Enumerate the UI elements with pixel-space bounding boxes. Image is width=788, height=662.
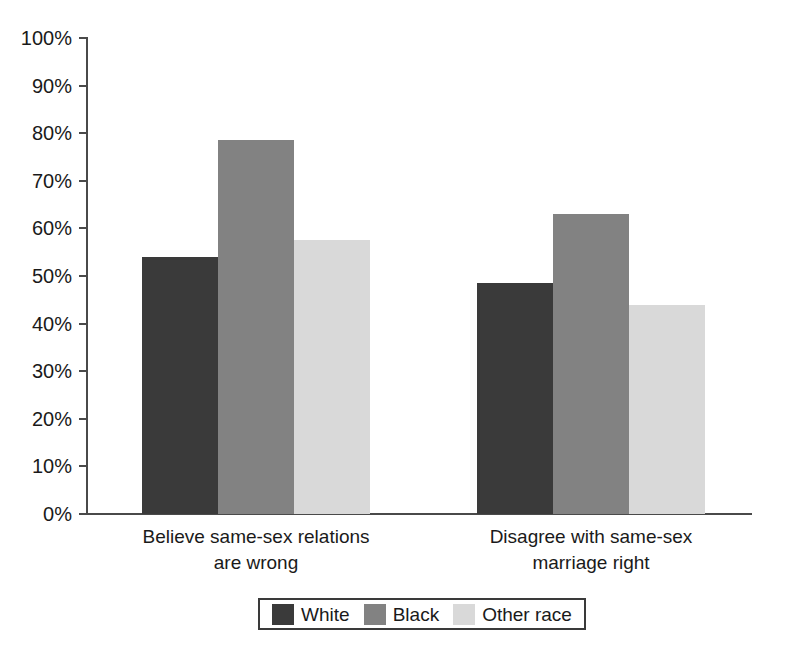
bar-chart: 0%10%20%30%40%50%60%70%80%90%100% Believ… bbox=[0, 0, 788, 662]
bar-other-race bbox=[294, 240, 370, 514]
y-axis-tick-label-text: 10% bbox=[0, 456, 72, 476]
bar-white bbox=[477, 283, 553, 514]
y-axis-tick-label: 100% bbox=[0, 28, 72, 48]
y-axis-tick-label-text: 70% bbox=[0, 171, 72, 191]
y-axis-tick-label-text: 30% bbox=[0, 361, 72, 381]
legend-item[interactable]: Black bbox=[364, 604, 439, 625]
x-axis-category-label-line: are wrong bbox=[106, 550, 406, 576]
legend-swatch-icon bbox=[272, 604, 294, 625]
y-axis-tick-label: 80% bbox=[0, 123, 72, 143]
y-axis-tick-label: 90% bbox=[0, 76, 72, 96]
y-axis-tick-label-text: 80% bbox=[0, 123, 72, 143]
x-axis-category-label-line: Believe same-sex relations bbox=[106, 524, 406, 550]
x-axis-category-label-line: Disagree with same-sex bbox=[441, 524, 741, 550]
bar-group bbox=[142, 38, 370, 514]
y-axis-tick-label-text: 0% bbox=[0, 504, 72, 524]
y-axis-tick-label: 60% bbox=[0, 218, 72, 238]
y-axis-tick-label: 10% bbox=[0, 456, 72, 476]
bar-group bbox=[477, 38, 705, 514]
legend-label: Black bbox=[393, 605, 439, 624]
y-axis-tick-label-text: 100% bbox=[0, 28, 72, 48]
x-axis-category-label-line: marriage right bbox=[441, 550, 741, 576]
bar-other-race bbox=[629, 305, 705, 514]
bar-white bbox=[142, 257, 218, 514]
x-axis-category-label: Disagree with same-sexmarriage right bbox=[441, 524, 741, 576]
chart-legend: WhiteBlackOther race bbox=[258, 598, 586, 630]
legend-swatch-icon bbox=[364, 604, 386, 625]
legend-item[interactable]: White bbox=[272, 604, 350, 625]
y-axis-tick-label: 0% bbox=[0, 504, 72, 524]
bar-black bbox=[218, 140, 294, 514]
legend-label: White bbox=[301, 605, 350, 624]
plot-area bbox=[87, 38, 752, 514]
y-axis-tick-label: 70% bbox=[0, 171, 72, 191]
legend-label: Other race bbox=[482, 605, 572, 624]
y-axis-tick-label: 40% bbox=[0, 314, 72, 334]
y-axis-tick-label-text: 60% bbox=[0, 218, 72, 238]
y-axis-tick-label-text: 50% bbox=[0, 266, 72, 286]
y-axis-tick-label: 50% bbox=[0, 266, 72, 286]
y-axis-tick-label-text: 20% bbox=[0, 409, 72, 429]
legend-item[interactable]: Other race bbox=[453, 604, 572, 625]
bar-black bbox=[553, 214, 629, 514]
y-axis-tick-label: 30% bbox=[0, 361, 72, 381]
y-axis-tick-label-text: 40% bbox=[0, 314, 72, 334]
legend-swatch-icon bbox=[453, 604, 475, 625]
y-axis-tick-label-text: 90% bbox=[0, 76, 72, 96]
x-axis-category-label: Believe same-sex relationsare wrong bbox=[106, 524, 406, 576]
y-axis-tick-label: 20% bbox=[0, 409, 72, 429]
